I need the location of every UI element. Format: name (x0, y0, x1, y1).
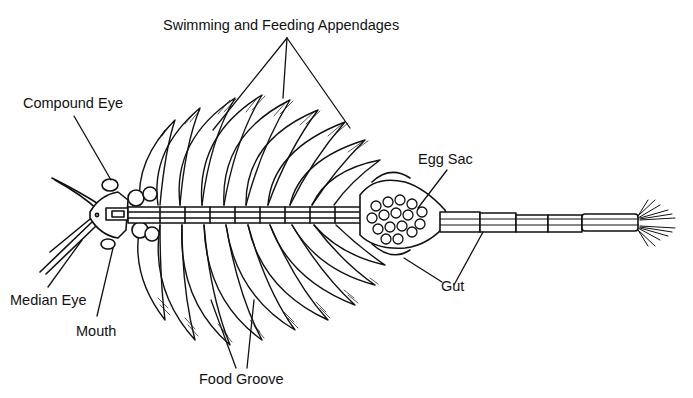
label-food-groove: Food Groove (199, 372, 284, 387)
antennae (40, 178, 100, 274)
label-gut: Gut (441, 279, 464, 294)
label-mouth: Mouth (76, 324, 116, 339)
abdomen (440, 212, 638, 232)
upper-appendages (139, 95, 380, 205)
label-egg-sac: Egg Sac (418, 152, 473, 167)
label-swimming-feeding-appendages: Swimming and Feeding Appendages (163, 18, 399, 33)
tail-furca (638, 200, 675, 246)
lower-appendages (138, 225, 385, 345)
label-compound-eye: Compound Eye (23, 96, 123, 111)
egg-sac (360, 172, 448, 254)
thorax (128, 207, 363, 223)
label-median-eye: Median Eye (10, 293, 87, 308)
